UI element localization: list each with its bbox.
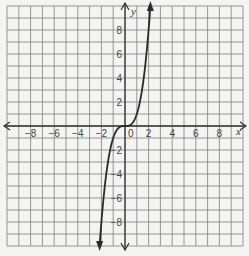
y-tick-label: 2 — [116, 97, 122, 108]
y-tick-label: −8 — [111, 217, 123, 228]
x-axis-label: x — [235, 125, 241, 137]
x-tick-label: 4 — [169, 128, 175, 139]
x-tick-label: 6 — [193, 128, 199, 139]
x-tick-label: −2 — [96, 128, 108, 139]
x-tick-label: 8 — [217, 128, 223, 139]
y-tick-label: 4 — [116, 73, 122, 84]
x-tick-label: −4 — [72, 128, 84, 139]
x-tick-label: −6 — [48, 128, 60, 139]
y-tick-label: −4 — [111, 169, 123, 180]
graph: yx −8−6−4−202468−8−6−4−22468 — [0, 0, 249, 256]
y-tick-label: 6 — [116, 49, 122, 60]
y-axis-label: y — [130, 5, 136, 17]
y-tick-label: −6 — [111, 193, 123, 204]
y-tick-label: −2 — [111, 145, 123, 156]
x-tick-label: 0 — [128, 128, 134, 139]
x-tick-label: −8 — [25, 128, 37, 139]
y-tick-label: 8 — [116, 25, 122, 36]
x-tick-label: 2 — [146, 128, 152, 139]
